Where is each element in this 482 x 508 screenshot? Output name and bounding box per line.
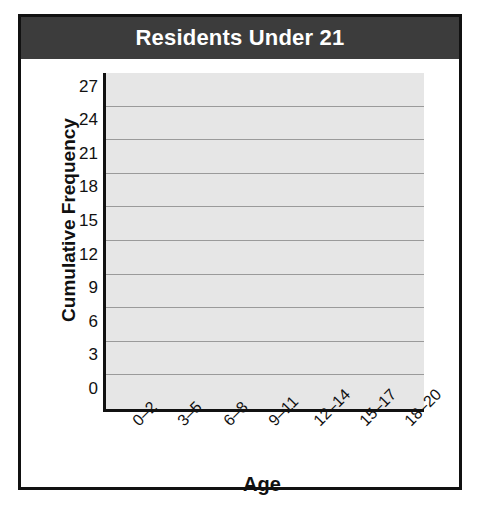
y-axis-tick-label: 0 <box>89 379 98 399</box>
plot-region: Cumulative Frequency 0369121518212427 0–… <box>21 59 459 487</box>
x-axis-tick-label: 18–20 <box>401 386 445 430</box>
y-axis-tick-label: 9 <box>89 278 98 298</box>
y-axis-tick-label: 3 <box>89 345 98 365</box>
page-title: Residents Under 21 <box>135 25 344 51</box>
x-axis-tick-label: 15–17 <box>356 386 400 430</box>
x-axis-tick-label: 0–2 <box>129 398 161 430</box>
x-axis-tick-label: 3–5 <box>174 398 206 430</box>
chart-frame: Residents Under 21 Cumulative Frequency … <box>18 14 462 490</box>
y-axis-tick-label: 12 <box>79 245 98 265</box>
y-axis-tick-label: 21 <box>79 144 98 164</box>
x-axis-tick-label: 6–8 <box>220 398 252 430</box>
chart-title-bar: Residents Under 21 <box>21 17 459 59</box>
y-axis-tick-label: 6 <box>89 312 98 332</box>
y-axis-tick-label: 27 <box>79 77 98 97</box>
bar-series: 0–23–56–89–1112–1415–1718–20 <box>106 73 424 409</box>
x-axis-label: Age <box>103 473 421 496</box>
y-axis-tick-label: 18 <box>79 177 98 197</box>
y-axis-tick-label: 24 <box>79 110 98 130</box>
y-axis-label: Cumulative Frequency <box>58 80 80 360</box>
y-axis-tick-label: 15 <box>79 211 98 231</box>
x-axis-tick-label: 12–14 <box>310 386 354 430</box>
plot-area: 0369121518212427 0–23–56–89–1112–1415–17… <box>103 73 424 412</box>
x-axis-tick-label: 9–11 <box>265 393 302 430</box>
